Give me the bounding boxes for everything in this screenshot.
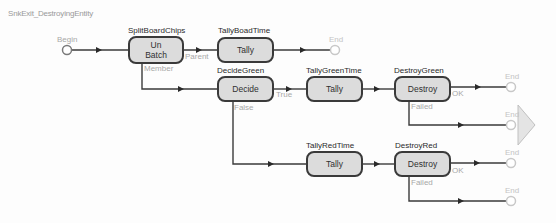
tally-red-time-name: TallyRedTime: [306, 141, 354, 150]
destroy-red-node[interactable]: Destroy: [394, 151, 451, 177]
end-label: End: [505, 110, 519, 119]
diagram-title: SnkExit_DestroyingEntity: [8, 9, 93, 18]
failed-port-label: Failed: [411, 178, 433, 187]
tally-type: Tally: [326, 159, 343, 169]
split-board-chips-node[interactable]: Un Batch: [128, 36, 184, 64]
expand-triangle-icon[interactable]: [518, 105, 535, 145]
end-terminal-icon[interactable]: [507, 121, 516, 130]
unbatch-type-line1: Un: [151, 40, 162, 50]
end-label: End: [505, 148, 519, 157]
decide-green-node[interactable]: Decide: [217, 76, 274, 102]
tally-type: Tally: [237, 45, 254, 55]
member-port-label: Member: [144, 64, 173, 73]
begin-label: Begin: [57, 35, 77, 44]
unbatch-type-line2: Batch: [145, 50, 167, 60]
split-board-chips-name: SplitBoardChips: [128, 26, 185, 35]
parent-port-label: Parent: [185, 52, 209, 61]
ok-port-label: OK: [452, 166, 464, 175]
destroy-type: Destroy: [408, 159, 437, 169]
end-label: End: [329, 35, 343, 44]
tally-red-time-node[interactable]: Tally: [306, 151, 363, 177]
true-port-label: True: [276, 90, 292, 99]
tally-boad-time-name: TallyBoadTime: [218, 26, 270, 35]
ok-port-label: OK: [452, 89, 464, 98]
failed-port-label: Failed: [411, 102, 433, 111]
destroy-green-name: DestroyGreen: [394, 66, 444, 75]
end-terminal-icon[interactable]: [507, 83, 516, 92]
process-diagram-canvas[interactable]: SnkExit_DestroyingEntity Begin SplitBoar…: [0, 0, 556, 223]
end-terminal-icon[interactable]: [507, 159, 516, 168]
tally-green-time-node[interactable]: Tally: [306, 76, 363, 102]
end-label: End: [505, 186, 519, 195]
destroy-red-name: DestroyRed: [395, 141, 437, 150]
decide-green-name: DecideGreen: [217, 66, 264, 75]
tally-type: Tally: [326, 84, 343, 94]
connectors-layer: [0, 0, 556, 223]
false-port-label: False: [234, 103, 254, 112]
end-label: End: [505, 72, 519, 81]
destroy-green-node[interactable]: Destroy: [394, 76, 451, 102]
end-terminal-icon[interactable]: [331, 46, 340, 55]
tally-green-time-name: TallyGreenTime: [306, 66, 362, 75]
end-terminal-icon[interactable]: [507, 197, 516, 206]
begin-terminal-icon[interactable]: [63, 46, 72, 55]
decide-type: Decide: [232, 84, 258, 94]
tally-boad-time-node[interactable]: Tally: [217, 37, 274, 63]
destroy-type: Destroy: [408, 84, 437, 94]
